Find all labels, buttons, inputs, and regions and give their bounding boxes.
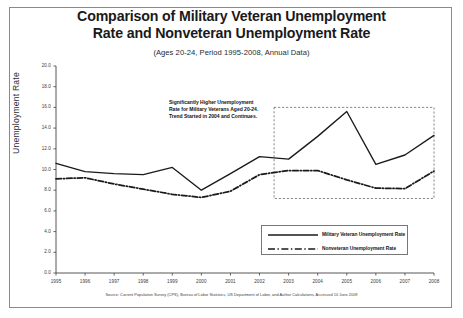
- source-note: Source: Current Population Survey (CPS),…: [0, 292, 463, 297]
- page-title: Comparison of Military Veteran Unemploym…: [0, 8, 463, 43]
- title-block: Comparison of Military Veteran Unemploym…: [0, 8, 463, 57]
- chart-title-line-2: Rate and Nonveteran Unemployment Rate: [93, 25, 370, 41]
- chart-subtitle: (Ages 20-24, Period 1995-2008, Annual Da…: [0, 48, 463, 57]
- chart-title-line-1: Comparison of Military Veteran Unemploym…: [77, 8, 386, 24]
